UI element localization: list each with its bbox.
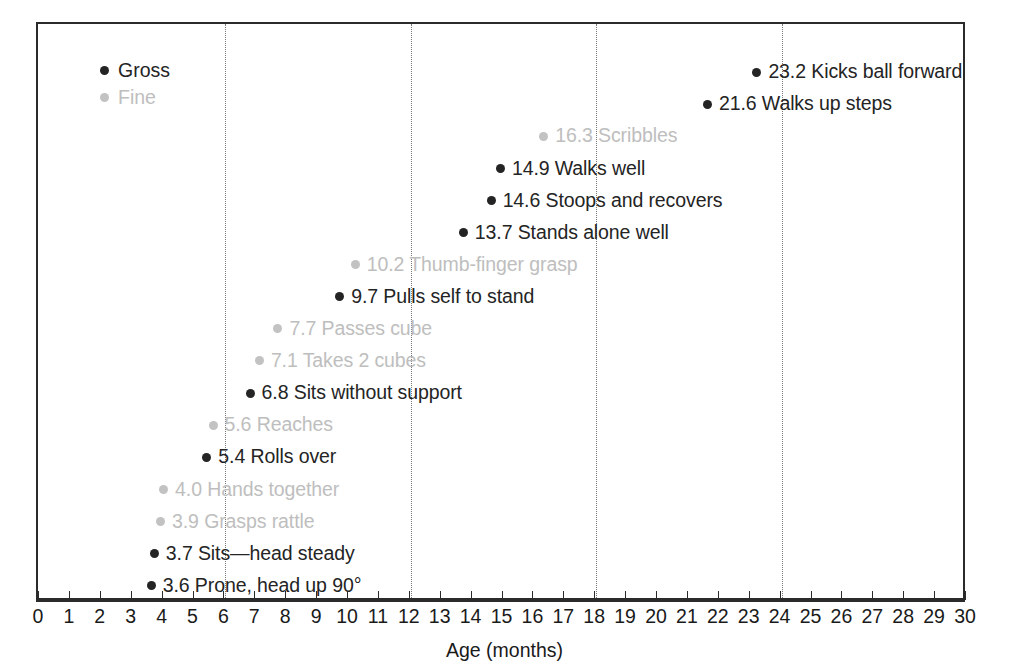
data-point-dot-icon: [246, 389, 255, 398]
x-tick-label: 3: [125, 605, 136, 628]
x-tick-11: [378, 591, 379, 600]
x-tick-label: 23: [738, 605, 760, 628]
x-tick-label: 12: [398, 605, 420, 628]
x-tick-label: 1: [63, 605, 74, 628]
data-point-label: 16.3 Scribbles: [555, 126, 677, 146]
x-tick-9: [316, 591, 317, 600]
x-tick-label: 26: [831, 605, 853, 628]
data-point: 21.6 Walks up steps: [703, 91, 892, 117]
legend-item-label: Gross: [118, 59, 170, 82]
data-point: 3.7 Sits—head steady: [150, 541, 355, 567]
x-tick-label: 29: [923, 605, 945, 628]
x-tick-label: 19: [614, 605, 636, 628]
data-point-label: 23.2 Kicks ball forward: [768, 62, 962, 82]
legend-item-label: Fine: [118, 86, 156, 109]
x-tick-3: [131, 591, 132, 600]
x-tick-label: 17: [552, 605, 574, 628]
x-tick-label: 30: [954, 605, 976, 628]
data-point-dot-icon: [487, 196, 496, 205]
data-point-label: 9.7 Pulls self to stand: [351, 287, 534, 307]
data-point-label: 7.7 Passes cube: [289, 319, 432, 339]
data-point-label: 4.0 Hands together: [175, 480, 339, 500]
x-tick-label: 0: [33, 605, 44, 628]
gridline-month-12: [411, 24, 412, 598]
x-tick-label: 27: [861, 605, 883, 628]
x-tick-6: [223, 591, 224, 600]
x-tick-5: [193, 591, 194, 600]
legend-item-gross[interactable]: Gross: [100, 57, 170, 84]
x-tick-8: [285, 591, 286, 600]
x-tick-label: 5: [187, 605, 198, 628]
data-point-dot-icon: [202, 453, 211, 462]
x-tick-26: [841, 591, 842, 600]
legend-dot-icon: [100, 66, 109, 75]
data-point: 13.7 Stands alone well: [459, 220, 669, 246]
x-tick-1: [69, 591, 70, 600]
data-point: 3.9 Grasps rattle: [156, 508, 314, 534]
x-axis-title: Age (months): [0, 639, 1009, 662]
data-point: 6.8 Sits without support: [246, 380, 462, 406]
x-tick-27: [872, 591, 873, 600]
data-point: 7.1 Takes 2 cubes: [255, 348, 426, 374]
x-tick-label: 15: [491, 605, 513, 628]
chart-legend: GrossFine: [100, 57, 170, 111]
x-tick-4: [162, 591, 163, 600]
data-point: 14.9 Walks well: [496, 155, 645, 181]
x-tick-label: 9: [311, 605, 322, 628]
x-tick-label: 13: [429, 605, 451, 628]
x-tick-label: 18: [583, 605, 605, 628]
x-tick-25: [811, 591, 812, 600]
data-point: 9.7 Pulls self to stand: [335, 284, 534, 310]
x-tick-29: [934, 591, 935, 600]
data-point-dot-icon: [351, 260, 360, 269]
x-tick-13: [440, 591, 441, 600]
data-point-dot-icon: [335, 292, 344, 301]
x-tick-7: [254, 591, 255, 600]
data-point-dot-icon: [273, 324, 282, 333]
data-point-dot-icon: [159, 485, 168, 494]
x-tick-label: 22: [707, 605, 729, 628]
data-point-label: 14.9 Walks well: [512, 159, 645, 179]
x-tick-23: [749, 591, 750, 600]
data-point: 14.6 Stoops and recovers: [487, 187, 723, 213]
data-point-dot-icon: [150, 549, 159, 558]
data-point-label: 10.2 Thumb-finger grasp: [367, 255, 578, 275]
data-point-dot-icon: [147, 581, 156, 590]
x-tick-label: 10: [336, 605, 358, 628]
x-tick-label: 11: [368, 605, 388, 628]
data-point-dot-icon: [156, 517, 165, 526]
data-point-dot-icon: [209, 421, 218, 430]
x-tick-label: 2: [94, 605, 105, 628]
data-point-label: 7.1 Takes 2 cubes: [271, 351, 426, 371]
x-tick-21: [687, 591, 688, 600]
x-tick-label: 8: [280, 605, 291, 628]
data-point-label: 3.7 Sits—head steady: [166, 544, 355, 564]
x-axis: 0123456789101112131415161718192021222324…: [0, 600, 1009, 667]
x-tick-10: [347, 591, 348, 600]
data-point-label: 5.6 Reaches: [225, 415, 333, 435]
data-point-label: 3.9 Grasps rattle: [172, 512, 314, 532]
x-tick-24: [780, 591, 781, 600]
x-tick-17: [563, 591, 564, 600]
x-tick-label: 16: [522, 605, 544, 628]
data-point: 7.7 Passes cube: [273, 316, 432, 342]
data-point: 4.0 Hands together: [159, 476, 339, 502]
x-tick-18: [594, 591, 595, 600]
data-point-dot-icon: [459, 228, 468, 237]
x-tick-label: 20: [645, 605, 667, 628]
x-tick-14: [471, 591, 472, 600]
data-point-label: 6.8 Sits without support: [262, 383, 462, 403]
x-tick-label: 7: [249, 605, 260, 628]
data-point-dot-icon: [703, 100, 712, 109]
data-point: 23.2 Kicks ball forward: [752, 59, 962, 85]
legend-item-fine[interactable]: Fine: [100, 84, 170, 111]
x-tick-0: [38, 591, 39, 600]
data-point: 10.2 Thumb-finger grasp: [351, 252, 578, 278]
data-point-dot-icon: [752, 68, 761, 77]
x-tick-label: 4: [156, 605, 167, 628]
x-tick-28: [903, 591, 904, 600]
data-point: 5.6 Reaches: [209, 412, 333, 438]
milestones-chart: GrossFine 23.2 Kicks ball forward21.6 Wa…: [0, 0, 1009, 667]
x-tick-15: [502, 591, 503, 600]
x-tick-label: 28: [892, 605, 914, 628]
